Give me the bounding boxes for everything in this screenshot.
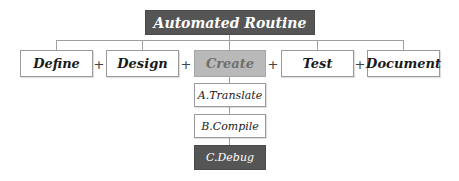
connector-test <box>317 40 318 50</box>
connector-design <box>142 40 143 50</box>
step-test: Test <box>281 50 354 77</box>
connector-define <box>56 40 57 50</box>
step-label: Define <box>33 56 80 71</box>
plus-operator: + <box>94 57 105 72</box>
substep-translate: A.Translate <box>194 83 266 107</box>
step-document: Document <box>367 50 440 77</box>
substep-label: A.Translate <box>198 89 262 102</box>
step-label: Design <box>117 56 167 71</box>
plus-operator: + <box>355 57 366 72</box>
connector-create <box>229 40 230 50</box>
step-label: Test <box>303 56 333 71</box>
substep-label: B.Compile <box>201 120 259 133</box>
step-label: Create <box>206 56 254 71</box>
connector-horizontal-bus <box>56 40 404 41</box>
plus-operator: + <box>181 57 192 72</box>
substep-compile: B.Compile <box>194 114 266 138</box>
substep-debug: C.Debug <box>194 145 266 170</box>
plus-operator: + <box>268 57 279 72</box>
step-define: Define <box>20 50 93 77</box>
step-design: Design <box>106 50 179 77</box>
substep-label: C.Debug <box>206 151 254 164</box>
connector-document <box>403 40 404 50</box>
step-label: Document <box>366 56 441 71</box>
root-label: Automated Routine <box>154 15 307 31</box>
root-node: Automated Routine <box>145 10 315 35</box>
step-create: Create <box>194 50 266 77</box>
